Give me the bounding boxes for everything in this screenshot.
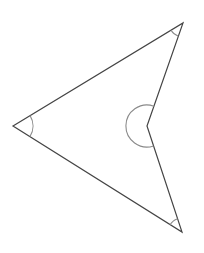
dart-outline (13, 23, 183, 232)
angle-arc-reflex (126, 105, 154, 147)
angle-arc-left (30, 116, 33, 137)
angle-arc-top-right (171, 30, 178, 36)
quadrilateral-edges (13, 23, 183, 232)
angle-arc-bottom-right (170, 219, 178, 225)
angle-marks (30, 30, 178, 225)
arrowhead-diagram (0, 0, 204, 253)
